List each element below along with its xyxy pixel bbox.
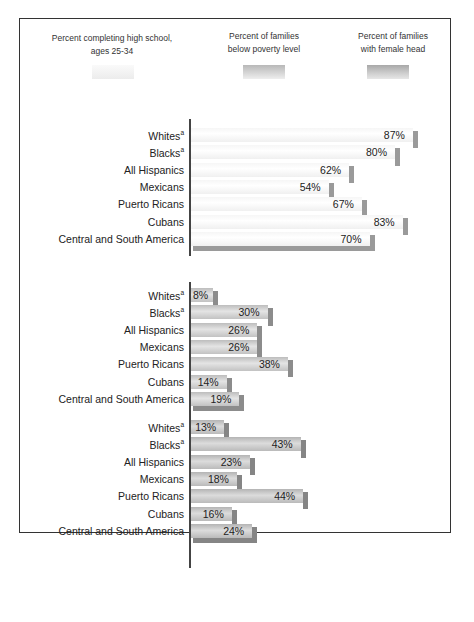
bar: 43%	[191, 437, 301, 451]
category-label-text: Mexicans	[140, 473, 184, 485]
category-label-text: All Hispanics	[124, 324, 184, 336]
bar-value-label: 87%	[384, 129, 405, 141]
legend-label-3: Percent of familieswith female head	[313, 30, 473, 56]
bar-shadow	[303, 492, 308, 509]
bar: 19%	[191, 392, 239, 406]
bar-value-label: 13%	[195, 421, 216, 433]
category-label-text: Puerto Ricans	[118, 198, 184, 210]
bar-face	[191, 145, 395, 159]
bar-value-label: 16%	[203, 508, 224, 520]
bar-value-label: 70%	[340, 233, 361, 245]
bar: 16%	[191, 507, 232, 521]
category-label-text: Cubans	[148, 508, 184, 520]
legend-label-line2: ages 25-34	[32, 45, 192, 58]
footnote-marker: a	[180, 146, 184, 153]
bar-shadow	[268, 308, 273, 325]
category-label-text: Mexicans	[140, 341, 184, 353]
bar: 44%	[191, 489, 303, 503]
category-label-text: Whites	[148, 422, 180, 434]
bar-value-label: 26%	[228, 341, 249, 353]
category-label: Whitesa	[148, 289, 184, 302]
category-label: Central and South America	[59, 233, 185, 245]
bar-shadow-bottom	[193, 406, 244, 411]
bar-value-label: 62%	[320, 164, 341, 176]
bar-value-label: 24%	[223, 525, 244, 537]
category-label-text: Cubans	[148, 216, 184, 228]
category-label: Cubans	[148, 376, 184, 388]
legend-swatch-3	[367, 65, 409, 79]
bar-shadow	[250, 458, 255, 475]
bar-value-label: 67%	[333, 198, 354, 210]
category-label: Whitesa	[148, 129, 184, 142]
bar-shadow	[395, 148, 400, 165]
legend-label-line1: Percent of families	[313, 30, 473, 43]
category-label-text: Puerto Ricans	[118, 358, 184, 370]
category-label-text: All Hispanics	[124, 164, 184, 176]
category-label: All Hispanics	[124, 456, 184, 468]
legend-label-line2: with female head	[313, 43, 473, 56]
category-label: All Hispanics	[124, 324, 184, 336]
footnote-marker: a	[180, 289, 184, 296]
category-label-text: All Hispanics	[124, 456, 184, 468]
bar-shadow	[301, 440, 306, 457]
bar: 14%	[191, 375, 227, 389]
bar-value-label: 54%	[300, 181, 321, 193]
legend-label-1: Percent completing high school,ages 25-3…	[32, 32, 192, 58]
category-label: Mexicans	[140, 181, 184, 193]
bar-value-label: 18%	[208, 473, 229, 485]
bar: 26%	[191, 340, 257, 354]
bar-face	[191, 215, 403, 229]
bar: 54%	[191, 180, 329, 194]
bar-value-label: 43%	[272, 438, 293, 450]
bar-value-label: 14%	[198, 376, 219, 388]
category-label: Cubans	[148, 508, 184, 520]
bar: 67%	[191, 197, 362, 211]
bar: 24%	[191, 524, 252, 538]
footnote-marker: a	[180, 421, 184, 428]
category-label: Mexicans	[140, 341, 184, 353]
category-label-text: Central and South America	[59, 525, 185, 537]
bar-value-label: 38%	[259, 358, 280, 370]
footnote-marker: a	[180, 129, 184, 136]
bar-value-label: 83%	[374, 216, 395, 228]
bar-shadow	[349, 166, 354, 183]
category-label: Puerto Ricans	[118, 198, 184, 210]
footnote-marker: a	[180, 438, 184, 445]
category-label-text: Central and South America	[59, 393, 185, 405]
category-label-text: Puerto Ricans	[118, 490, 184, 502]
category-label-text: Mexicans	[140, 181, 184, 193]
category-label: Cubans	[148, 216, 184, 228]
category-label: Central and South America	[59, 393, 185, 405]
category-label-text: Blacks	[149, 147, 180, 159]
bar-face	[191, 128, 413, 142]
category-label-text: Blacks	[149, 439, 180, 451]
bar-value-label: 80%	[366, 146, 387, 158]
bar-shadow	[403, 218, 408, 235]
category-label-text: Cubans	[148, 376, 184, 388]
category-label: Whitesa	[148, 421, 184, 434]
bar-shadow	[257, 326, 262, 343]
bar: 62%	[191, 163, 349, 177]
bar-shadow-bottom	[193, 538, 257, 543]
category-label: Mexicans	[140, 473, 184, 485]
legend-label-line1: Percent completing high school,	[32, 32, 192, 45]
bar: 83%	[191, 215, 403, 229]
bar: 26%	[191, 323, 257, 337]
bar: 80%	[191, 145, 395, 159]
bar-value-label: 23%	[221, 456, 242, 468]
bar: 13%	[191, 420, 224, 434]
legend-swatch-1	[92, 65, 134, 79]
bar: 18%	[191, 472, 237, 486]
bar-shadow	[413, 131, 418, 148]
bar-value-label: 8%	[193, 289, 208, 301]
bar: 70%	[191, 232, 370, 246]
category-label-text: Blacks	[149, 307, 180, 319]
category-label-text: Central and South America	[59, 233, 185, 245]
bar-shadow	[288, 360, 293, 377]
footnote-marker: a	[180, 306, 184, 313]
category-label: Blacksa	[149, 306, 184, 319]
bar-value-label: 19%	[210, 393, 231, 405]
legend-swatch-2	[243, 65, 285, 79]
bar: 30%	[191, 305, 268, 319]
category-label: Puerto Ricans	[118, 490, 184, 502]
